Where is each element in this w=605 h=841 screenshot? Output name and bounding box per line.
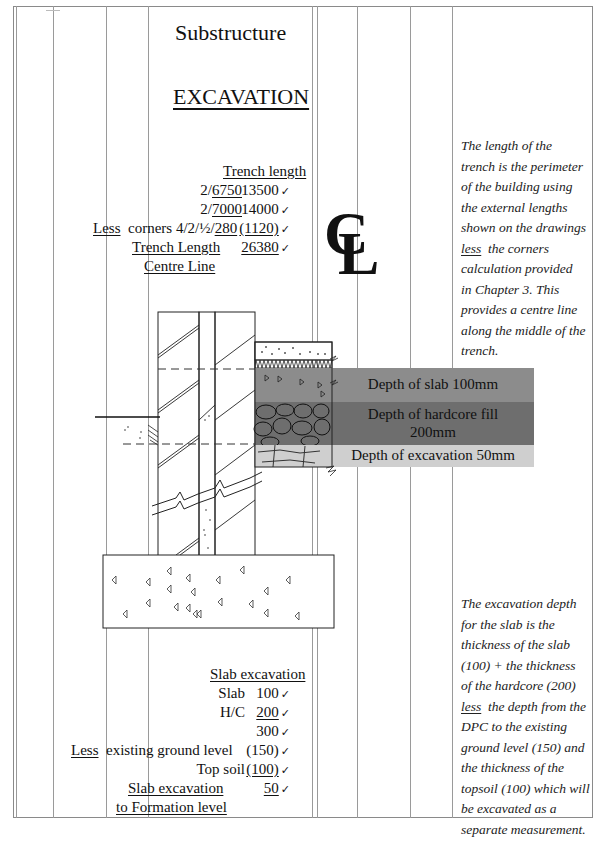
slab-row-label: Less existing ground level [71, 741, 233, 759]
slab-total-value: 50✓ [240, 779, 290, 799]
check-icon: ✓ [281, 688, 290, 701]
slab-row-label: H/C [180, 703, 245, 721]
slab-row-value: (150)✓ [230, 741, 290, 761]
hardcore-depth-label: Depth of hardcore fill 200mm [332, 405, 534, 441]
check-icon: ✓ [281, 707, 290, 720]
slab-subtotal-value: 300✓ [240, 722, 290, 742]
slab-depth-label: Depth of slab 100mm [332, 376, 534, 393]
slab-row-value: (100)✓ [230, 760, 290, 780]
check-icon: ✓ [281, 745, 290, 758]
excavation-depth-label: Depth of excavation 50mm [332, 447, 534, 464]
slab-total-label-line2: to Formation level [116, 798, 227, 816]
slab-row-value: 100✓ [240, 684, 290, 704]
slab-heading: Slab excavation [210, 665, 305, 683]
slab-total-label: Slab excavation [128, 779, 223, 797]
check-icon: ✓ [281, 783, 290, 796]
page: Substructure EXCAVATION Trench length 2/… [0, 0, 605, 841]
slab-note: The excavation depth for the slab is the… [461, 594, 601, 840]
slab-row-value: 200✓ [240, 703, 290, 723]
check-icon: ✓ [281, 764, 290, 777]
check-icon: ✓ [281, 726, 290, 739]
slab-row-label: Slab [180, 684, 245, 702]
